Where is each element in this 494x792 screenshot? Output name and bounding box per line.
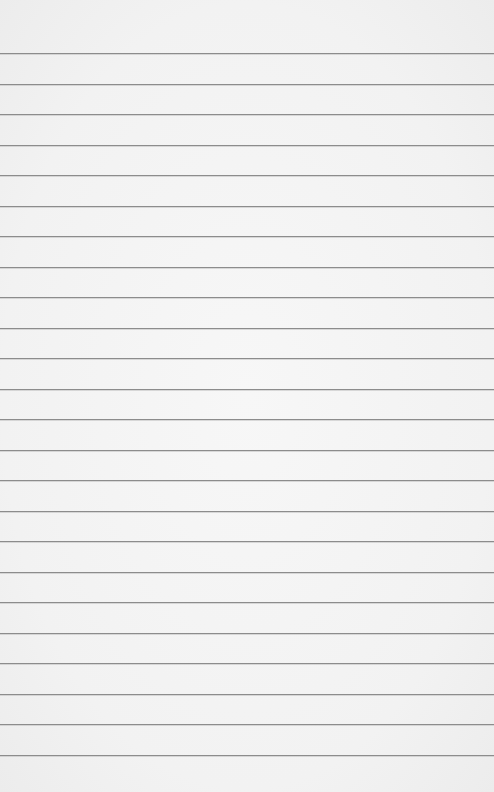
ruled-line: [0, 663, 494, 664]
ruled-line: [0, 541, 494, 542]
ruled-line: [0, 297, 494, 298]
ruled-line: [0, 602, 494, 603]
ruled-line: [0, 206, 494, 207]
ruled-line: [0, 450, 494, 451]
ruled-line: [0, 511, 494, 512]
ruled-line: [0, 267, 494, 268]
ruled-line: [0, 755, 494, 756]
ruled-line: [0, 175, 494, 176]
ruled-line: [0, 480, 494, 481]
ruled-line: [0, 724, 494, 725]
ruled-line: [0, 114, 494, 115]
ruled-line: [0, 236, 494, 237]
ruled-line: [0, 633, 494, 634]
ruled-line: [0, 572, 494, 573]
ruled-line: [0, 389, 494, 390]
ruled-line: [0, 53, 494, 54]
ruled-line: [0, 694, 494, 695]
ruled-line: [0, 145, 494, 146]
ruled-line: [0, 328, 494, 329]
lined-paper: [0, 0, 494, 792]
ruled-line: [0, 84, 494, 85]
ruled-line: [0, 419, 494, 420]
ruled-line: [0, 358, 494, 359]
